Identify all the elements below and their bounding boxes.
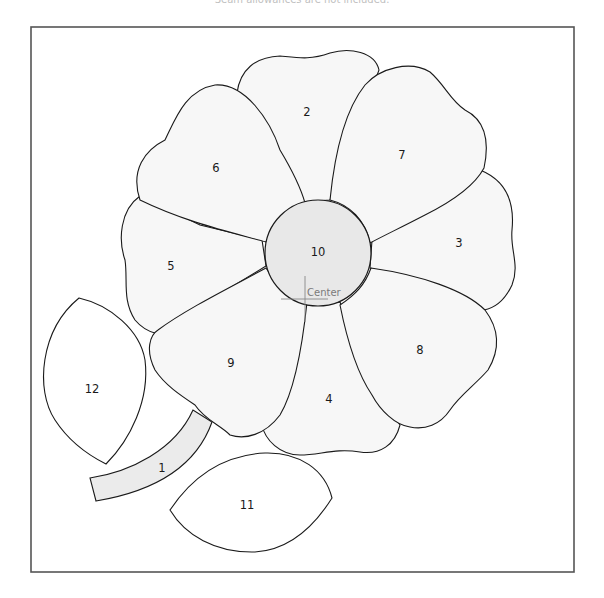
piece-10-number: 10 [311, 245, 326, 259]
piece-7-number: 7 [398, 148, 405, 162]
piece-2-number: 2 [303, 105, 310, 119]
piece-4-number: 4 [325, 392, 332, 406]
piece-8-number: 8 [416, 343, 423, 357]
flower-pattern: Center 1 2 3 4 5 6 7 8 9 10 11 12 [0, 0, 604, 598]
piece-9-number: 9 [227, 356, 234, 370]
piece-3-number: 3 [455, 236, 462, 250]
center-mark-label: Center [307, 287, 342, 298]
piece-5-number: 5 [167, 259, 174, 273]
piece-1-number: 1 [158, 461, 165, 475]
piece-6-number: 6 [212, 161, 219, 175]
piece-12-number: 12 [85, 382, 100, 396]
piece-11-number: 11 [240, 498, 255, 512]
